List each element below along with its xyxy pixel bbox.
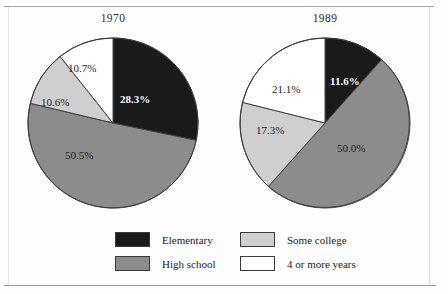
pie-chart-1970: [25, 35, 201, 211]
legend-swatch-elementary: [115, 232, 150, 247]
chart-title-1970: 1970: [63, 12, 163, 24]
page-rule-bottom: [4, 285, 436, 286]
legend-swatch-four-or-more-years: [240, 256, 275, 271]
legend-item-high-school: High school: [115, 256, 215, 271]
legend-item-elementary: Elementary: [115, 232, 213, 247]
figure-page: 1970 1989 28.3% 50.5% 10.6% 10.7% 11.6% …: [0, 0, 448, 294]
legend-label-four-or-more-years: 4 or more years: [287, 258, 356, 270]
legend-swatch-some-college: [240, 232, 275, 247]
legend-label-some-college: Some college: [287, 234, 347, 246]
pie-svg-1989: [237, 35, 413, 211]
legend-item-some-college: Some college: [240, 232, 347, 247]
pie-slice-1970-elementary: [113, 38, 198, 140]
legend-item-four-or-more-years: 4 or more years: [240, 256, 356, 271]
pie-chart-1989: [237, 35, 413, 211]
page-rule-left: [8, 7, 9, 285]
legend: Elementary High school Some college 4 or…: [115, 232, 355, 280]
pie-svg-1970: [25, 35, 201, 211]
page-rule-top: [4, 6, 434, 7]
page-rule-right: [429, 7, 430, 285]
legend-label-elementary: Elementary: [162, 234, 213, 246]
legend-label-high-school: High school: [162, 258, 215, 270]
legend-swatch-high-school: [115, 256, 150, 271]
chart-title-1989: 1989: [275, 12, 375, 24]
